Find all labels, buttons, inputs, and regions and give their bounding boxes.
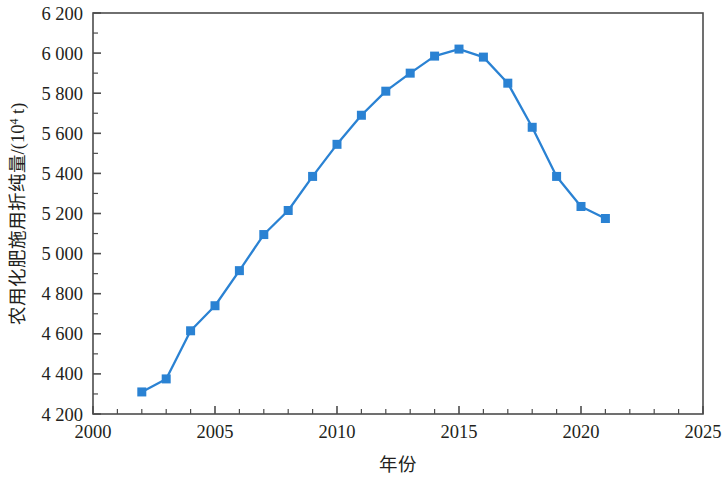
data-point-marker [528, 123, 537, 132]
data-point-marker [552, 172, 561, 181]
data-point-marker [186, 326, 195, 335]
y-tick-label: 4 600 [41, 324, 83, 344]
y-axis-title-group: 农用化肥施用折纯量/(104 t) [7, 103, 29, 326]
plot-frame [93, 13, 703, 414]
y-tick-label: 5 000 [41, 244, 83, 264]
x-axis-title: 年份 [379, 455, 417, 475]
x-tick-label: 2010 [319, 422, 356, 442]
data-point-marker [162, 374, 171, 383]
y-tick-label: 5 800 [41, 84, 83, 104]
y-tick-label: 4 400 [41, 364, 83, 384]
y-tick-label: 5 600 [41, 124, 83, 144]
data-point-marker [308, 172, 317, 181]
series-markers-fertilizer [137, 45, 610, 397]
data-point-marker [235, 266, 244, 275]
plot-area-border [93, 13, 703, 414]
data-point-marker [479, 53, 488, 62]
data-point-marker [381, 87, 390, 96]
data-point-marker [455, 45, 464, 54]
line-chart: 4 2004 4004 6004 8005 0005 2005 4005 600… [0, 0, 725, 478]
data-point-marker [406, 69, 415, 78]
y-axis-tick-labels: 4 2004 4004 6004 8005 0005 2005 4005 600… [41, 4, 83, 425]
x-tick-label: 2025 [685, 422, 722, 442]
y-tick-label: 5 200 [41, 204, 83, 224]
y-tick-label: 5 400 [41, 164, 83, 184]
x-tick-label: 2000 [75, 422, 112, 442]
data-point-marker [211, 301, 220, 310]
y-axis-ticks [93, 13, 101, 414]
x-tick-label: 2015 [441, 422, 478, 442]
x-tick-label: 2020 [563, 422, 600, 442]
data-point-marker [430, 52, 439, 61]
y-tick-label: 6 200 [41, 4, 83, 24]
data-point-marker [137, 387, 146, 396]
y-tick-label: 6 000 [41, 44, 83, 64]
data-point-marker [601, 214, 610, 223]
data-point-marker [357, 111, 366, 120]
data-point-marker [284, 206, 293, 215]
data-point-marker [577, 202, 586, 211]
x-axis-tick-labels: 200020052010201520202025 [75, 422, 722, 442]
y-tick-label: 4 800 [41, 284, 83, 304]
data-point-marker [503, 79, 512, 88]
data-point-marker [333, 140, 342, 149]
chart-canvas: 4 2004 4004 6004 8005 0005 2005 4005 600… [0, 0, 725, 478]
series-line-fertilizer [142, 49, 606, 392]
data-series-group [137, 45, 610, 397]
y-axis-title: 农用化肥施用折纯量/(104 t) [7, 103, 29, 326]
data-point-marker [259, 230, 268, 239]
x-axis-ticks [93, 406, 703, 414]
x-tick-label: 2005 [197, 422, 234, 442]
